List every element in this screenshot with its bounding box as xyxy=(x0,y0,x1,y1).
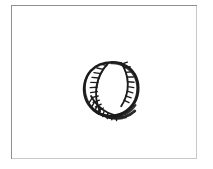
baseball-drawing xyxy=(81,58,143,124)
ball-outline xyxy=(84,62,138,117)
image-canvas xyxy=(0,0,213,169)
baseball-svg xyxy=(81,58,143,124)
picture-frame-border xyxy=(11,5,197,159)
